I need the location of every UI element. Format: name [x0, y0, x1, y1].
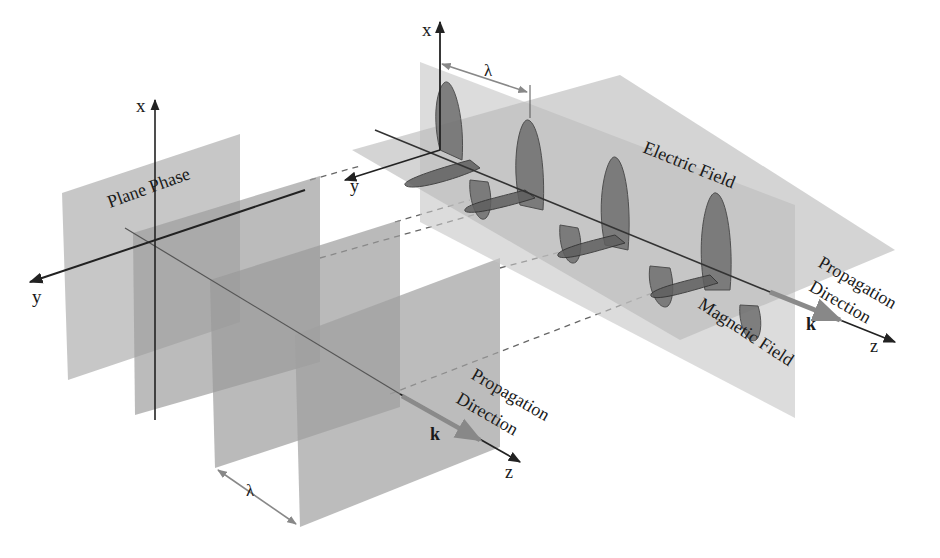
- em-wave-diagram: x y z Plane Phase k Propagation Directio…: [0, 0, 940, 558]
- right-x-label: x: [422, 19, 432, 40]
- left-y-label: y: [32, 286, 42, 307]
- right-wavelength-label: λ: [484, 61, 493, 80]
- right-y-label: y: [350, 176, 359, 196]
- left-z-label: z: [505, 462, 513, 482]
- left-x-label: x: [136, 95, 146, 116]
- right-z-label: z: [870, 336, 878, 356]
- right-k-label: k: [806, 314, 816, 334]
- left-k-label: k: [430, 424, 440, 444]
- left-wavelength-arrow: [218, 470, 296, 524]
- left-wavelength-label: λ: [246, 481, 255, 500]
